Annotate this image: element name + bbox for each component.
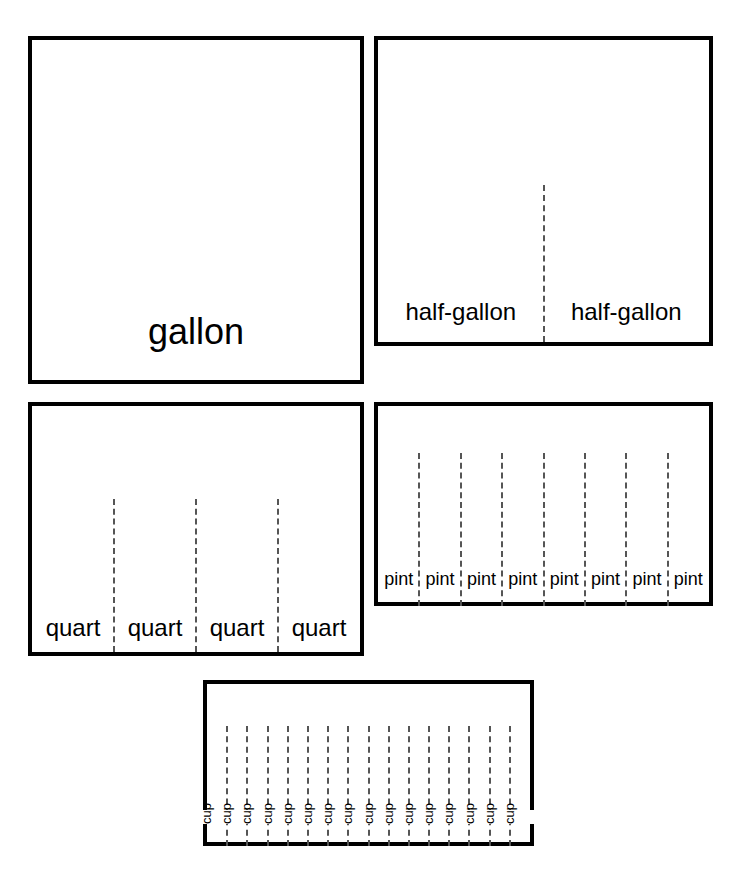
pint-label: pint <box>383 568 414 602</box>
half-gallon-label: half-gallon <box>402 298 519 342</box>
quart-label: quart <box>125 614 186 652</box>
quart-cell: quart <box>196 406 278 652</box>
pint-label: pint <box>549 568 580 602</box>
half-gallon-cell: half-gallon <box>544 40 710 342</box>
pint-cells: pint pint pint pint pint pint pint pint <box>378 406 709 602</box>
quart-cell: quart <box>114 406 196 652</box>
gallon-cell: gallon <box>32 40 360 380</box>
pint-box: pint pint pint pint pint pint pint pint <box>374 402 713 606</box>
pint-cell: pint <box>419 406 460 602</box>
pint-cell: pint <box>502 406 543 602</box>
pint-label: pint <box>590 568 621 602</box>
quart-label: quart <box>43 614 104 652</box>
half-gallon-cell: half-gallon <box>378 40 544 342</box>
pint-cell: pint <box>378 406 419 602</box>
pint-label: pint <box>466 568 497 602</box>
capacity-chart-canvas: gallon half-gallon half-gallon quart qua… <box>0 0 735 876</box>
pint-cell: pint <box>668 406 709 602</box>
cup-label: cup <box>503 810 537 824</box>
pint-label: pint <box>425 568 456 602</box>
quart-cells: quart quart quart quart <box>32 406 360 652</box>
pint-cell: pint <box>544 406 585 602</box>
quart-label: quart <box>289 614 350 652</box>
gallon-box: gallon <box>28 36 364 384</box>
cup-cell: cup <box>510 684 530 842</box>
half-gallon-cells: half-gallon half-gallon <box>378 40 709 342</box>
gallon-label: gallon <box>145 312 247 380</box>
cup-box: cup cup cup cup cup cup cup cup <box>203 680 534 846</box>
gallon-cells: gallon <box>32 40 360 380</box>
quart-label: quart <box>207 614 268 652</box>
pint-label: pint <box>631 568 662 602</box>
clipped-header-text <box>28 0 448 4</box>
quart-cell: quart <box>32 406 114 652</box>
pint-label: pint <box>673 568 704 602</box>
pint-cell: pint <box>461 406 502 602</box>
cup-cells: cup cup cup cup cup cup cup cup <box>207 684 530 842</box>
half-gallon-box: half-gallon half-gallon <box>374 36 713 346</box>
quart-cell: quart <box>278 406 360 652</box>
quart-box: quart quart quart quart <box>28 402 364 656</box>
pint-cell: pint <box>626 406 667 602</box>
half-gallon-label: half-gallon <box>568 298 685 342</box>
pint-cell: pint <box>585 406 626 602</box>
pint-label: pint <box>507 568 538 602</box>
